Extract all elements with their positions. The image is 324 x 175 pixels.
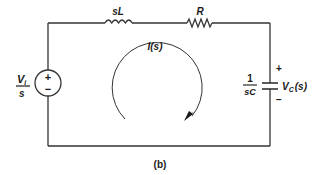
source-minus: − [45, 83, 51, 95]
capacitor-minus: − [276, 94, 282, 105]
resistor-label: R [196, 6, 204, 17]
source-label-s: s [19, 88, 25, 99]
capacitor-plus: + [276, 63, 282, 74]
source-plus: + [45, 71, 51, 83]
inductor-icon [105, 20, 132, 23]
capacitor-impedance-numerator: 1 [247, 73, 253, 84]
capacitor-voltage-label: VC(s) [282, 81, 308, 93]
current-label: I(s) [148, 41, 164, 52]
figure-caption: (b) [154, 159, 167, 170]
source-label-v: Vi [17, 73, 27, 86]
resistor-icon [187, 19, 212, 27]
arrowhead-fill [184, 111, 193, 121]
inductor-label: sL [112, 6, 124, 17]
circuit-diagram: + − Vi s sL R I(s) 1 sC + − VC(s) (b) [0, 0, 324, 175]
capacitor-impedance-denominator: sC [244, 87, 256, 97]
current-loop-arrow [112, 43, 202, 119]
